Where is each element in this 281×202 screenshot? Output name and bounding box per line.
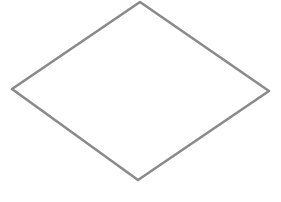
diagram-canvas — [0, 0, 281, 202]
decision-diamond — [12, 2, 269, 180]
diagram-svg — [0, 0, 281, 202]
